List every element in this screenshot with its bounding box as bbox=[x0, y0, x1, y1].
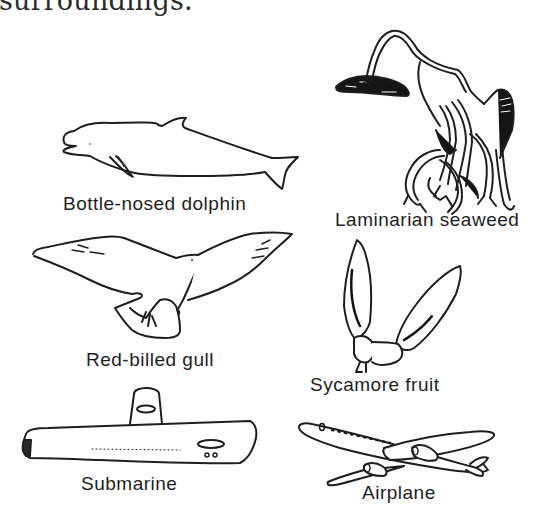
figure-page: surroundings. Bottle-nosed dolphin bbox=[0, 0, 551, 517]
airplane-icon bbox=[0, 0, 551, 517]
label-airplane: Airplane bbox=[362, 483, 436, 503]
